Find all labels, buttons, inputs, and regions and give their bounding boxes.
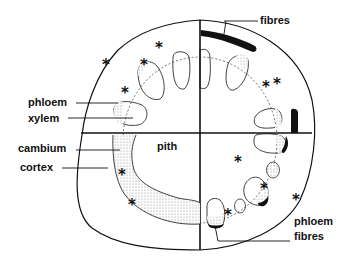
svg-text:*: * xyxy=(128,196,136,214)
svg-text:*: * xyxy=(262,78,270,96)
svg-text:*: * xyxy=(234,153,242,171)
stem-section-diagram: * * * * * * * * * * * * phloem xylem cam… xyxy=(0,0,354,264)
svg-text:*: * xyxy=(260,180,268,198)
svg-text:*: * xyxy=(121,84,129,102)
svg-text:*: * xyxy=(140,56,148,74)
svg-text:*: * xyxy=(292,191,300,209)
label-cambium: cambium xyxy=(18,142,67,154)
label-phloem-fibres-line2: fibres xyxy=(294,230,324,242)
svg-text:*: * xyxy=(155,39,163,57)
label-fibres: fibres xyxy=(260,14,290,26)
asterisk-markers: * * * * * * * * * * * * xyxy=(102,39,300,224)
svg-text:*: * xyxy=(224,206,232,224)
label-xylem: xylem xyxy=(28,112,59,124)
label-phloem-fibres-line1: phloem xyxy=(294,215,333,227)
svg-text:*: * xyxy=(118,166,126,184)
vascular-bundles-bottom-right xyxy=(207,134,286,228)
svg-text:*: * xyxy=(273,75,281,93)
svg-text:*: * xyxy=(102,56,110,74)
label-pith: pith xyxy=(157,140,177,152)
label-cortex: cortex xyxy=(20,161,54,173)
label-phloem: phloem xyxy=(28,96,67,108)
